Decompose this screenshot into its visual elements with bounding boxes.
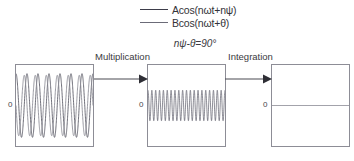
legend-label-series-b: Bcos(nωt+θ) <box>172 17 229 29</box>
stage-label-multiplication: Multiplication <box>95 51 150 62</box>
waveform-product <box>148 90 225 121</box>
stage-label-integration: Integration <box>228 51 273 62</box>
legend-label-series-a: Acos(nωt+nψ) <box>172 4 236 16</box>
phase-relation-annotation: nψ-θ=90° <box>150 38 240 49</box>
plot-input-signals <box>15 64 94 147</box>
zero-tick-label-plot-2: 0 <box>139 100 143 109</box>
legend-entry-series-a: Acos(nωt+nψ) <box>140 3 290 16</box>
legend-line-swatch-icon <box>140 22 168 23</box>
plot-2-svg <box>148 65 225 146</box>
figure-canvas: Acos(nωt+nψ) Bcos(nωt+θ) nψ-θ=90° Multip… <box>0 0 354 161</box>
arrow-multiplication-icon <box>94 72 148 86</box>
waveform-series-b <box>16 75 93 135</box>
legend: Acos(nωt+nψ) Bcos(nωt+θ) <box>140 3 290 29</box>
plot-product-signal <box>147 64 226 147</box>
zero-tick-label-plot-3: 0 <box>263 100 267 109</box>
plot-1-svg <box>16 65 93 146</box>
plot-integrated-signal <box>271 64 350 147</box>
legend-line-swatch-icon <box>140 9 168 10</box>
legend-entry-series-b: Bcos(nωt+θ) <box>140 16 290 29</box>
zero-tick-label-plot-1: 0 <box>8 100 12 109</box>
plot-3-svg <box>272 65 349 146</box>
arrow-integration-icon <box>225 72 272 86</box>
